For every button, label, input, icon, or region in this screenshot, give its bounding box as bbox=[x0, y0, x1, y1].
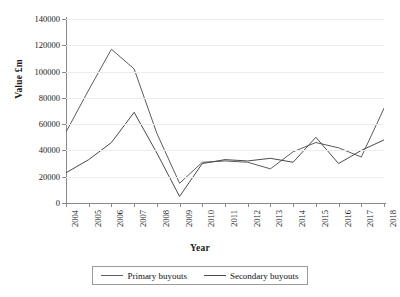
y-tick-mark bbox=[62, 19, 66, 20]
y-tick-label: 140000 bbox=[35, 14, 61, 24]
y-tick-mark bbox=[62, 150, 66, 151]
x-tick-mark bbox=[111, 203, 112, 207]
legend-entry-secondary: Secondary buyouts bbox=[204, 271, 299, 281]
x-tick-mark bbox=[202, 203, 203, 207]
x-tick-mark bbox=[270, 203, 271, 207]
y-tick-label: 80000 bbox=[39, 93, 60, 103]
x-tick-label: 2006 bbox=[115, 210, 125, 227]
x-tick-label: 2012 bbox=[252, 210, 262, 227]
y-tick-label: 40000 bbox=[39, 145, 60, 155]
gridline bbox=[66, 177, 384, 178]
x-tick-mark bbox=[225, 203, 226, 207]
x-tick-label: 2017 bbox=[365, 210, 375, 227]
x-tick-label: 2014 bbox=[297, 210, 307, 227]
legend-label-primary: Primary buyouts bbox=[127, 271, 187, 281]
x-tick-mark bbox=[339, 203, 340, 207]
y-tick-mark bbox=[62, 72, 66, 73]
gridline bbox=[66, 45, 384, 46]
y-tick-mark bbox=[62, 124, 66, 125]
gridline bbox=[66, 72, 384, 73]
gridline bbox=[66, 124, 384, 125]
chart-legend: Primary buyouts Secondary buyouts bbox=[92, 266, 308, 285]
x-tick-mark bbox=[180, 203, 181, 207]
series-line-primary bbox=[66, 49, 384, 183]
x-tick-label: 2005 bbox=[93, 210, 103, 227]
x-tick-label: 2018 bbox=[388, 210, 398, 227]
y-tick-label: 60000 bbox=[39, 119, 60, 129]
x-tick-label: 2008 bbox=[161, 210, 171, 227]
x-tick-mark bbox=[293, 203, 294, 207]
gridline bbox=[66, 150, 384, 151]
x-tick-label: 2010 bbox=[206, 210, 216, 227]
y-tick-mark bbox=[62, 177, 66, 178]
legend-entry-primary: Primary buyouts bbox=[101, 271, 187, 281]
y-tick-mark bbox=[62, 45, 66, 46]
gridline bbox=[66, 19, 384, 20]
y-tick-label: 20000 bbox=[39, 172, 60, 182]
plot-area: 020000400006000080000100000120000140000 … bbox=[66, 19, 384, 203]
y-tick-mark bbox=[62, 98, 66, 99]
x-tick-label: 2004 bbox=[70, 210, 80, 227]
y-tick-label: 100000 bbox=[35, 67, 61, 77]
x-tick-label: 2009 bbox=[184, 210, 194, 227]
series-lines bbox=[66, 19, 384, 203]
x-tick-mark bbox=[361, 203, 362, 207]
legend-label-secondary: Secondary buyouts bbox=[230, 271, 299, 281]
x-tick-mark bbox=[384, 203, 385, 207]
x-tick-label: 2007 bbox=[138, 210, 148, 227]
x-tick-label: 2011 bbox=[229, 210, 239, 227]
legend-line-icon-secondary bbox=[204, 275, 226, 276]
y-tick-label: 0 bbox=[56, 198, 60, 208]
legend-line-icon-primary bbox=[101, 275, 123, 276]
x-tick-label: 2016 bbox=[343, 210, 353, 227]
x-tick-mark bbox=[89, 203, 90, 207]
x-tick-mark bbox=[66, 203, 67, 207]
y-axis-title: Value £m bbox=[14, 34, 24, 124]
x-tick-mark bbox=[248, 203, 249, 207]
x-tick-label: 2013 bbox=[274, 210, 284, 227]
x-tick-mark bbox=[157, 203, 158, 207]
x-tick-mark bbox=[316, 203, 317, 207]
x-tick-label: 2015 bbox=[320, 210, 330, 227]
gridline bbox=[66, 98, 384, 99]
x-axis-title: Year bbox=[0, 243, 400, 253]
chart-figure: Value £m 0200004000060000800001000001200… bbox=[0, 0, 400, 297]
y-tick-label: 120000 bbox=[35, 40, 61, 50]
x-tick-mark bbox=[134, 203, 135, 207]
